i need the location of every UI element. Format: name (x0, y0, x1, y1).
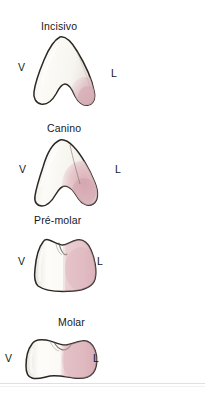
side-label-vestibular-canino: V (19, 163, 26, 175)
tooth-illustration-incisivo (30, 34, 114, 112)
tooth-title-molar: Molar (58, 316, 85, 328)
footer-divider-secondary (0, 386, 205, 387)
footer-divider (0, 383, 205, 384)
tooth-illustration-molar (22, 330, 118, 388)
tooth-title-canino: Canino (47, 122, 81, 134)
side-label-vestibular-molar: V (5, 352, 12, 364)
side-label-lingual-molar: L (93, 352, 99, 364)
tooth-morphology-figure: Incisivo (0, 0, 205, 397)
side-label-lingual-incisivo: L (111, 67, 117, 79)
side-label-lingual-pre-molar: L (97, 255, 103, 267)
side-label-vestibular-incisivo: V (18, 61, 25, 73)
tooth-title-incisivo: Incisivo (41, 20, 77, 32)
side-label-lingual-canino: L (115, 163, 121, 175)
side-label-vestibular-pre-molar: V (18, 255, 25, 267)
tooth-title-pre-molar: Pré-molar (34, 214, 81, 226)
tooth-illustration-canino (32, 137, 116, 209)
